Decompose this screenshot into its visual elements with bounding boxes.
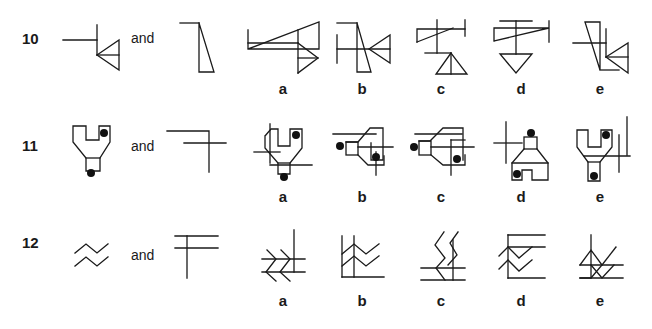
- figure-10-option-e: [573, 22, 628, 73]
- figure-12-option-c: [421, 232, 465, 280]
- figure-10-option-b: [337, 23, 390, 72]
- figure-11-option-e: [577, 117, 630, 181]
- figure-10-shape-2: [180, 23, 214, 72]
- figure-10-option-d: [494, 21, 549, 73]
- figure-10-option-a: [248, 22, 319, 73]
- figure-11-option-c: [410, 128, 474, 175]
- figure-11-option-b: [333, 128, 393, 175]
- figure-10-shape-1: [63, 25, 119, 70]
- figure-12-option-b: [342, 236, 384, 277]
- figure-12-shape-1: [75, 244, 108, 266]
- figure-12-shape-2: [175, 236, 218, 278]
- figure-11-shape-1: [73, 126, 110, 177]
- figure-12-option-e: [580, 235, 623, 278]
- figure-12-option-d: [499, 235, 545, 278]
- figure-12-option-a: [262, 230, 305, 281]
- figure-10-option-c: [417, 20, 467, 74]
- puzzle-figures: [0, 0, 652, 329]
- figure-11-option-d: [494, 122, 548, 180]
- figure-11-option-a: [254, 124, 312, 181]
- figure-11-shape-2: [167, 131, 226, 172]
